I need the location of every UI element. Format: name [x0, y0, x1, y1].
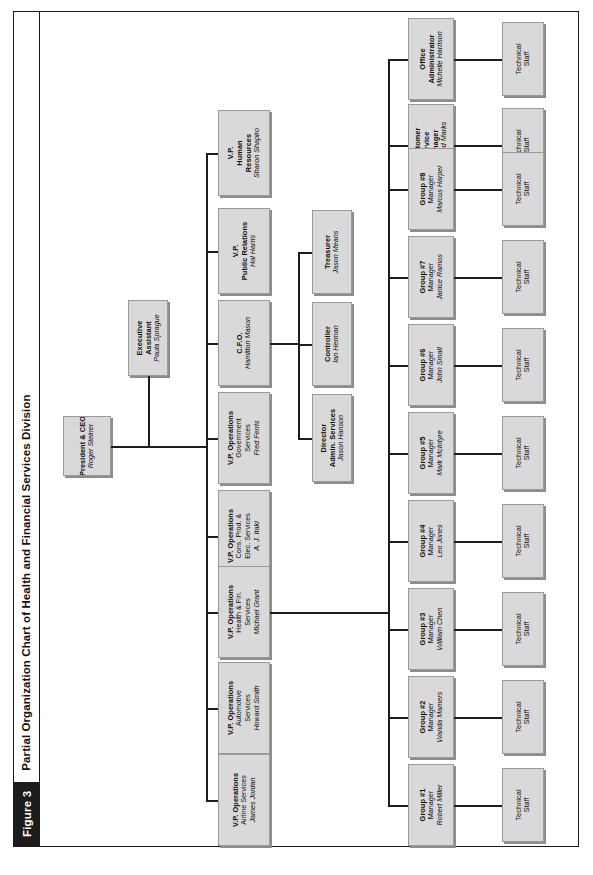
node-vp-auto-name: Howard Smith: [253, 681, 262, 735]
node-group4-text: Group #4ManagerLeo Jones: [418, 524, 445, 557]
node-vp-health: V.P. OperationsHealth & Fin.ServicesMich…: [218, 566, 270, 658]
node-vp-gov-text: V.P. OperationsGovernmentServicesFred Fe…: [226, 411, 261, 465]
node-technical-staff-text: TechnicalStaff: [514, 525, 532, 556]
node-director-admin-name: Jason Hanson: [337, 409, 346, 467]
connector-line: [454, 277, 502, 279]
node-treasurer-text: TreasurerJason Means: [323, 231, 341, 274]
node-technical-staff-text: TechnicalStaff: [514, 613, 532, 644]
connector-line: [388, 59, 390, 805]
node-treasurer-name: Jason Means: [332, 231, 341, 274]
connector-line: [388, 453, 408, 455]
connector-line: [388, 189, 408, 191]
node-group8-text: Group #8ManagerMarcus Harper: [418, 165, 445, 213]
node-director-admin-text: DirectorAdmin. ServicesJason Hanson: [319, 409, 346, 467]
connector-line: [388, 629, 408, 631]
node-vp-gov: V.P. OperationsGovernmentServicesFred Fe…: [218, 392, 270, 484]
connector-line: [206, 153, 218, 155]
node-technical-staff: TechnicalStaff: [502, 328, 544, 402]
connector-line: [454, 629, 502, 631]
node-office-admin-name: Michelle Harrison: [436, 31, 445, 87]
node-treasurer: TreasurerJason Means: [312, 210, 352, 294]
node-technical-staff-text: TechnicalStaff: [514, 349, 532, 380]
node-technical-staff: TechnicalStaff: [502, 22, 544, 96]
node-group2: Group #2ManagerWanda Mamers: [408, 676, 454, 758]
connector-line: [454, 453, 502, 455]
connector-line: [206, 343, 218, 345]
node-vp-hr-name: Sharon Shapiro: [253, 128, 262, 178]
node-group5-text: Group #5ManagerMark McIntyre: [418, 430, 445, 476]
node-vp-hr-line2: Human: [235, 128, 244, 178]
node-group3: Group #3ManagerWilliam Chen: [408, 588, 454, 670]
node-cfo: C.F.O.Hamilton Mason: [218, 300, 270, 386]
connector-line: [270, 343, 298, 345]
node-group1-text: Group #1ManagerRobert Miller: [418, 785, 445, 826]
node-technical-staff: TechnicalStaff: [502, 416, 544, 490]
connector-line: [206, 536, 218, 538]
node-group6: Group #6ManagerJohn Small: [408, 324, 454, 406]
connector-line: [454, 59, 502, 61]
node-director-admin: DirectorAdmin. ServicesJason Hanson: [312, 394, 352, 482]
connector-line: [206, 612, 218, 614]
node-technical-staff-line2: Staff: [523, 261, 532, 292]
connector-line: [454, 189, 502, 191]
connector-line: [388, 59, 408, 61]
node-group7-name: Janice Ramos: [436, 254, 445, 300]
node-vp-auto: V.P. OperationsAutomotiveServicesHoward …: [218, 662, 270, 754]
node-cfo-name: Hamilton Mason: [244, 317, 253, 369]
node-technical-staff-text: TechnicalStaff: [514, 43, 532, 74]
node-office-admin-text: OfficeAdministratorMichelle Harrison: [418, 31, 445, 87]
org-chart-canvas: President & CEORoger SteinerExecutiveAss…: [40, 12, 578, 846]
node-technical-staff-line2: Staff: [523, 525, 532, 556]
node-vp-health-name: Michael Grant: [253, 585, 262, 639]
node-controller-name: Ian Herman: [332, 325, 341, 363]
connector-line: [298, 252, 312, 254]
node-office-admin-line1: Office: [418, 31, 427, 87]
connector-line: [111, 446, 206, 448]
node-group2-name: Wanda Mamers: [436, 692, 445, 743]
node-vp-cons-text: V.P. OperationsCons. Prod. &Elec. Servic…: [226, 509, 261, 563]
figure-title: Partial Organization Chart of Health and…: [13, 11, 40, 782]
figure-page: Figure 3 Partial Organization Chart of H…: [0, 0, 593, 875]
node-exec-assistant-name: Paula Sprague: [153, 314, 162, 362]
figure-caption-bar: Figure 3 Partial Organization Chart of H…: [13, 11, 40, 847]
node-controller-text: ControllerIan Herman: [323, 325, 341, 363]
connector-line: [298, 438, 312, 440]
connector-line: [206, 251, 218, 253]
node-ceo: President & CEORoger Steiner: [63, 416, 111, 476]
connector-line: [388, 145, 408, 147]
node-group4: Group #4ManagerLeo Jones: [408, 500, 454, 582]
node-technical-staff-line2: Staff: [523, 43, 532, 74]
node-cfo-text: C.F.O.Hamilton Mason: [235, 317, 253, 369]
node-technical-staff-line2: Staff: [523, 789, 532, 820]
node-group4-name: Leo Jones: [436, 524, 445, 557]
connector-line: [388, 541, 408, 543]
node-vp-gov-name: Fred Ferris: [253, 411, 262, 465]
node-ceo-name: Roger Steiner: [87, 416, 96, 476]
connector-line: [388, 277, 408, 279]
node-group6-text: Group #6ManagerJohn Small: [418, 347, 445, 383]
connector-line: [388, 717, 408, 719]
node-vp-airline: V.P. OperationsAirline ServicesJames Jor…: [218, 754, 270, 846]
node-technical-staff: TechnicalStaff: [502, 768, 544, 842]
connector-line: [388, 365, 408, 367]
node-technical-staff-text: TechnicalStaff: [514, 789, 532, 820]
node-technical-staff-text: TechnicalStaff: [514, 701, 532, 732]
node-group5: Group #5ManagerMark McIntyre: [408, 412, 454, 494]
node-group3-name: William Chen: [436, 608, 445, 650]
node-technical-staff: TechnicalStaff: [502, 592, 544, 666]
figure-number-tag: Figure 3: [13, 782, 40, 847]
connector-line: [206, 438, 218, 440]
connector-line: [454, 541, 502, 543]
connector-line: [454, 805, 502, 807]
node-vp-health-text: V.P. OperationsHealth & Fin.ServicesMich…: [226, 585, 261, 639]
node-technical-staff-line2: Staff: [523, 349, 532, 380]
node-exec-assistant: ExecutiveAssistantPaula Sprague: [128, 300, 168, 376]
node-ceo-text: President & CEORoger Steiner: [78, 416, 96, 476]
node-group1: Group #1ManagerRobert Miller: [408, 764, 454, 846]
node-vp-pr-name: Hal Harris: [249, 222, 258, 280]
node-group6-name: John Small: [436, 347, 445, 383]
node-technical-staff-text: TechnicalStaff: [514, 437, 532, 468]
node-vp-auto-text: V.P. OperationsAutomotiveServicesHoward …: [226, 681, 261, 735]
node-vp-hr-line1: V.P.: [226, 128, 235, 178]
node-technical-staff: TechnicalStaff: [502, 152, 544, 226]
